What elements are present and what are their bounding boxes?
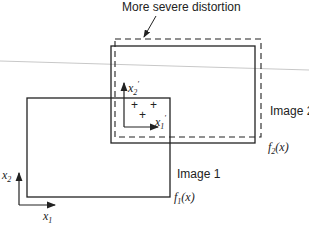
- image1-label: Image 1: [177, 167, 220, 181]
- image1-function-label: f1(x): [174, 190, 195, 206]
- axis-sub: 2: [133, 88, 137, 97]
- local-x-axis-label: x1′: [155, 114, 166, 131]
- local-y-axis-label: x2′: [128, 80, 139, 97]
- axis-prime: ′: [137, 80, 139, 89]
- caption-label: More severe distortion: [122, 0, 241, 14]
- image2-function-label: f2(x): [268, 140, 289, 156]
- axis-sub: 1: [160, 122, 164, 131]
- func-arg: (x): [181, 190, 194, 204]
- global-x-axis-label: x1: [43, 209, 52, 225]
- axis-prime: ′: [164, 114, 166, 123]
- marker-plus: +: [150, 98, 157, 112]
- image1-frame: [27, 98, 170, 197]
- caption-pointer-arrow: [144, 16, 156, 37]
- axis-sub: 2: [7, 175, 11, 184]
- stray-scan-line: [0, 61, 309, 70]
- global-y-axis-label: x2: [2, 168, 11, 184]
- func-arg: (x): [275, 140, 288, 154]
- marker-plus: +: [139, 108, 146, 122]
- marker-plus: +: [131, 98, 138, 112]
- diagram-canvas: [0, 0, 309, 225]
- image2-label: Image 2: [270, 104, 309, 118]
- axis-sub: 1: [48, 216, 52, 225]
